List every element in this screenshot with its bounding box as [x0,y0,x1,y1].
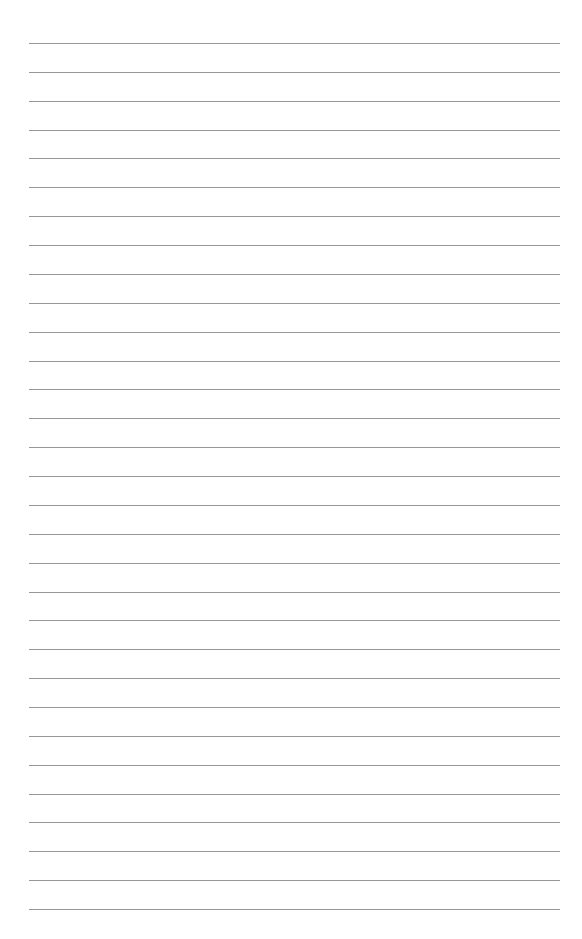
ruled-line [29,765,560,766]
ruled-line [29,303,560,304]
ruled-line [29,101,560,102]
ruled-line [29,707,560,708]
ruled-line [29,43,560,44]
ruled-line [29,245,560,246]
ruled-line [29,678,560,679]
ruled-line [29,332,560,333]
ruled-line [29,736,560,737]
ruled-line [29,909,560,910]
ruled-line [29,880,560,881]
ruled-line [29,418,560,419]
ruled-line [29,158,560,159]
ruled-line [29,216,560,217]
ruled-line [29,187,560,188]
ruled-line [29,447,560,448]
ruled-line [29,72,560,73]
ruled-line [29,534,560,535]
ruled-line [29,505,560,506]
ruled-line [29,563,560,564]
ruled-line [29,794,560,795]
ruled-line [29,649,560,650]
ruled-line [29,130,560,131]
ruled-line [29,274,560,275]
lined-paper-page [0,0,582,939]
ruled-line [29,361,560,362]
ruled-line [29,822,560,823]
ruled-line [29,389,560,390]
ruled-line [29,476,560,477]
ruled-line [29,592,560,593]
ruled-line [29,851,560,852]
ruled-line [29,620,560,621]
